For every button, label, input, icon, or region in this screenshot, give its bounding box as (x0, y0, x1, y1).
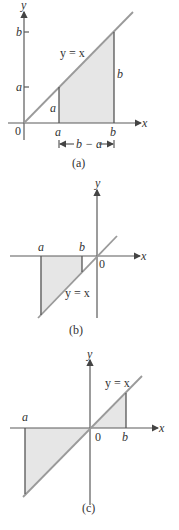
height-b-label: b (117, 67, 123, 81)
width-label: b − a (76, 137, 102, 151)
caption-c: (c) (82, 501, 95, 515)
x-axis-label: x (141, 116, 148, 130)
caption-a: (a) (72, 156, 85, 170)
line-label: y = x (60, 46, 85, 60)
origin-label: 0 (99, 257, 105, 271)
tick-a-label: a (55, 125, 61, 139)
height-a-label: a (50, 101, 56, 115)
tick-a-label: a (22, 410, 28, 424)
tick-b-label: b (122, 430, 128, 444)
panel-c: y x 0 a b y = x (c) (10, 347, 165, 515)
tick-b-label: b (79, 240, 85, 254)
caption-b: (b) (69, 323, 83, 337)
y-axis-label: y (94, 176, 101, 190)
tick-a-label: a (38, 240, 44, 254)
panel-a: y x 0 b a y = x a b a b b − a (a) (8, 0, 148, 170)
origin-label: 0 (95, 430, 101, 444)
ytick-b-label: b (16, 25, 22, 39)
panel-b: y x 0 a b y = x (b) (10, 176, 147, 337)
x-axis-label: x (140, 249, 147, 263)
origin-label: 0 (15, 124, 21, 138)
line-label: y = x (105, 376, 130, 390)
y-axis-label: y (20, 0, 27, 12)
figure: y x 0 b a y = x a b a b b − a (a) y x 0 … (0, 0, 179, 530)
tick-b-label: b (110, 125, 116, 139)
x-axis-label: x (158, 421, 165, 435)
y-axis-label: y (86, 347, 93, 361)
line-label: y = x (65, 286, 90, 300)
ytick-a-label: a (16, 80, 22, 94)
